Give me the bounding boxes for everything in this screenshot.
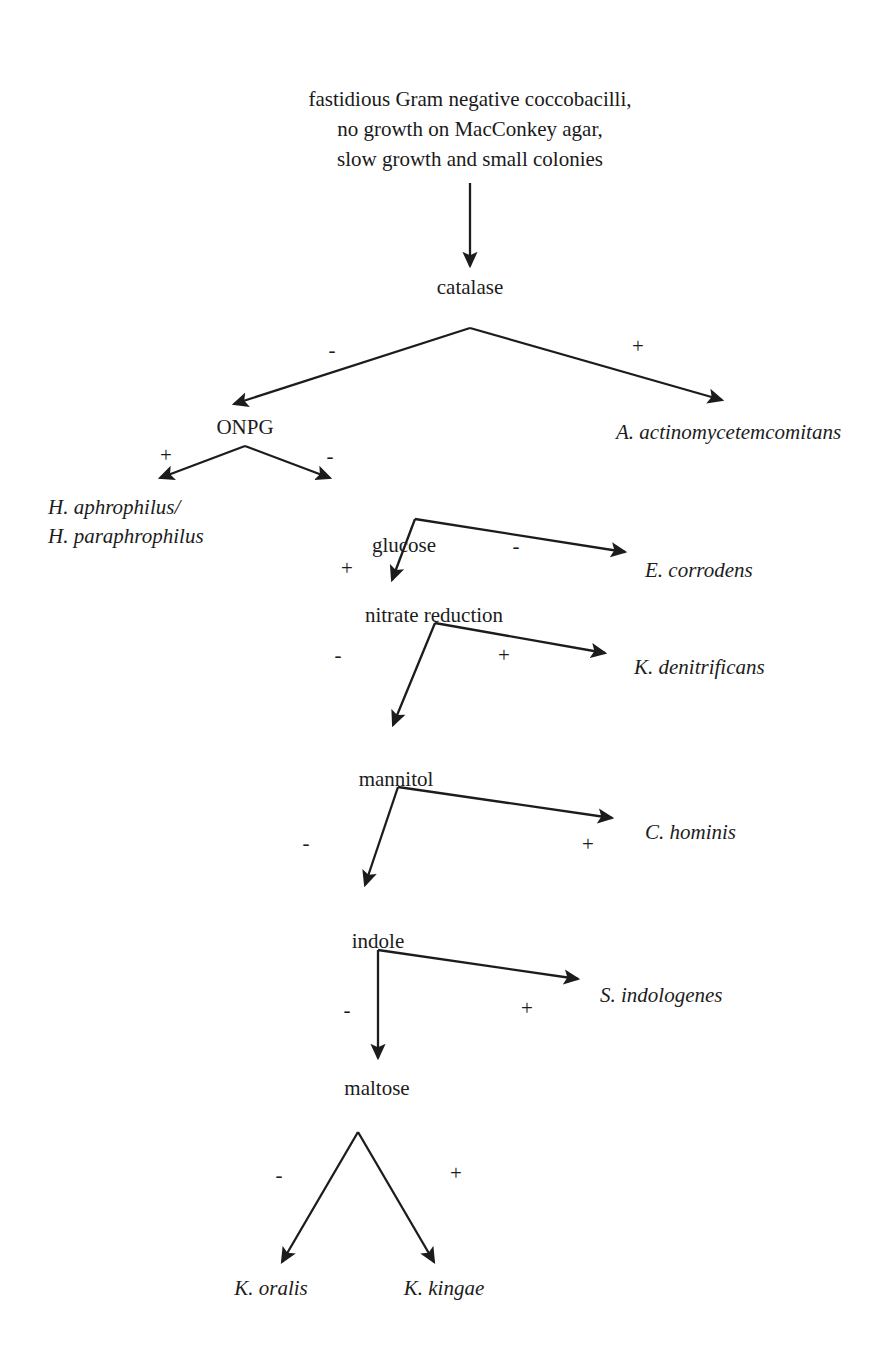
sign-nitrate-positive: + [498,645,510,666]
sign-maltose-negative: - [276,1165,283,1186]
sign-catalase-positive: + [632,336,644,357]
leaf-e-corrodens[interactable]: E. corrodens [645,556,753,585]
edge-catalase-onpg [234,328,470,404]
edge-maltose-koralis [282,1132,358,1262]
node-nitrate-reduction[interactable]: nitrate reduction [365,601,503,630]
sign-indole-positive: + [521,998,533,1019]
sign-indole-negative: - [344,1000,351,1021]
edge-catalase-aa [470,328,722,400]
leaf-a-actinomycetemcomitans[interactable]: A. actinomycetemcomitans [616,418,841,447]
leaf-s-indologenes[interactable]: S. indologenes [600,981,722,1010]
premise-text: fastidious Gram negative coccobacilli, n… [308,84,631,174]
leaf-k-oralis[interactable]: K. oralis [234,1274,308,1303]
sign-catalase-negative: - [329,340,336,361]
sign-glucose-negative: - [513,536,520,557]
node-maltose[interactable]: maltose [344,1074,409,1103]
sign-maltose-positive: + [450,1163,462,1184]
node-indole[interactable]: indole [352,927,405,956]
edge-nitrate-mannitol [393,623,435,725]
leaf-c-hominis[interactable]: C. hominis [645,818,736,847]
sign-glucose-positive: + [341,558,353,579]
edge-mannitol-indole [365,787,398,885]
edge-onpg-glucose [245,446,330,478]
edge-indole-sindologenes [378,950,578,979]
leaf-h-aphrophilus-paraphrophilus[interactable]: H. aphrophilus/ H. paraphrophilus [48,493,204,551]
edge-maltose-kkingae [358,1132,434,1262]
sign-nitrate-negative: - [335,645,342,666]
edge-glucose-ecorrodens [415,519,625,552]
node-catalase[interactable]: catalase [437,273,503,302]
leaf-k-kingae[interactable]: K. kingae [404,1274,484,1303]
node-mannitol[interactable]: mannitol [359,765,434,794]
sign-mannitol-positive: + [582,834,594,855]
identification-key-diagram: fastidious Gram negative coccobacilli, n… [0,0,890,1357]
sign-onpg-positive: + [160,445,172,466]
edge-onpg-haphrophilus [160,446,245,478]
node-glucose[interactable]: glucose [372,531,436,560]
leaf-k-denitrificans[interactable]: K. denitrificans [634,653,765,682]
node-onpg[interactable]: ONPG [216,413,273,442]
sign-mannitol-negative: - [303,833,310,854]
sign-onpg-negative: - [327,446,334,467]
